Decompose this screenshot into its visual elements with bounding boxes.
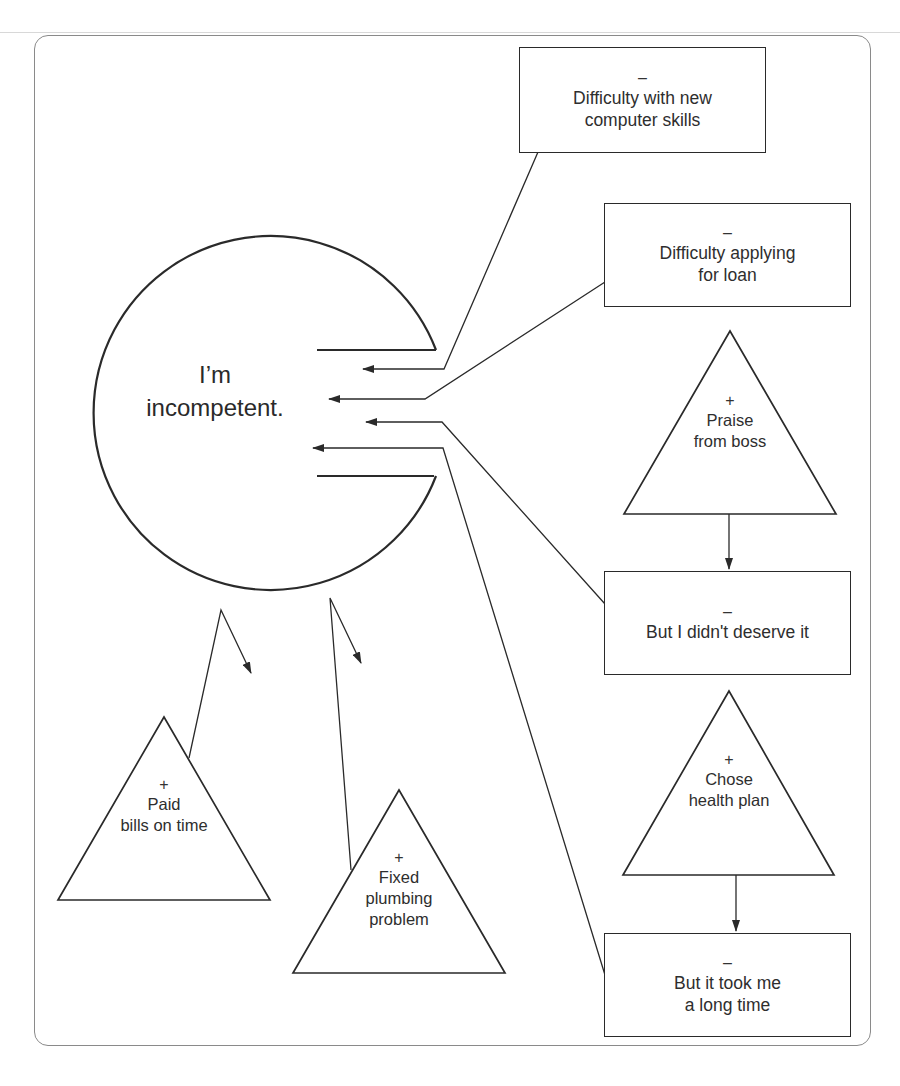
triangle-text-line: from boss xyxy=(670,431,790,452)
triangle-text-line: problem xyxy=(339,909,459,930)
minus-sign-icon: – xyxy=(638,69,647,87)
plus-sign-icon: + xyxy=(99,776,229,794)
triangle-text-line: plumbing xyxy=(339,888,459,909)
arrow-p4-deflected xyxy=(330,598,361,870)
plus-sign-icon: + xyxy=(339,849,459,867)
triangle-text-line: Chose xyxy=(664,769,794,790)
negative-box-didnt-deserve: – But I didn't deserve it xyxy=(604,571,851,675)
minus-sign-icon: – xyxy=(723,954,732,972)
negative-box-long-time: – But it took me a long time xyxy=(604,933,851,1037)
triangle-text-line: Paid xyxy=(99,794,229,815)
triangle-paid-bills-label: + Paid bills on time xyxy=(99,776,229,836)
box-text-line: computer skills xyxy=(585,109,701,131)
box-text-line: Difficulty with new xyxy=(573,87,712,109)
arrow-n3-into-belief xyxy=(366,422,605,604)
box-text-line: for loan xyxy=(698,264,756,286)
core-belief-label: I’m incompetent. xyxy=(100,358,330,424)
arrow-n2-into-belief xyxy=(329,282,605,399)
core-belief-line2: incompetent. xyxy=(100,391,330,424)
triangle-text-line: bills on time xyxy=(99,815,229,836)
triangle-praise-label: + Praise from boss xyxy=(670,392,790,452)
negative-box-computer-skills: – Difficulty with new computer skills xyxy=(519,47,766,153)
triangle-health-plan-label: + Chose health plan xyxy=(664,751,794,811)
plus-sign-icon: + xyxy=(670,392,790,410)
arrow-n1-into-belief xyxy=(363,152,538,369)
minus-sign-icon: – xyxy=(723,224,732,242)
triangle-text-line: Fixed xyxy=(339,867,459,888)
negative-box-loan: – Difficulty applying for loan xyxy=(604,203,851,307)
arrow-p3-deflected xyxy=(189,610,251,758)
triangle-text-line: health plan xyxy=(664,790,794,811)
box-text-line: a long time xyxy=(685,994,771,1016)
box-text-line: Difficulty applying xyxy=(660,242,796,264)
box-text-line: But it took me xyxy=(674,972,781,994)
box-text-line: But I didn't deserve it xyxy=(646,621,809,643)
plus-sign-icon: + xyxy=(664,751,794,769)
triangle-text-line: Praise xyxy=(670,410,790,431)
core-belief-line1: I’m xyxy=(100,358,330,391)
triangle-plumbing-label: + Fixed plumbing problem xyxy=(339,849,459,930)
minus-sign-icon: – xyxy=(723,603,732,621)
